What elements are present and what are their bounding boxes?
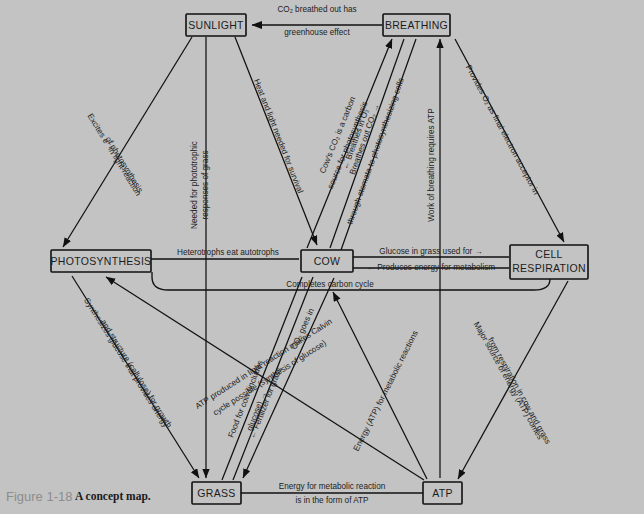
node-breathing[interactable]: BREATHING xyxy=(383,14,450,36)
concept-map-canvas: CO₂ breathed out has greenhouse effect E… xyxy=(0,0,644,530)
edge-label-e19: Energy (ATP) for metabolic reactions xyxy=(352,329,420,452)
edge-label-e21-line1: Energy for metabolic reaction xyxy=(279,482,386,491)
node-photosynthesis[interactable]: PHOTOSYNTHESIS xyxy=(51,250,152,272)
edge-cell-respiration-to-cow: ← Produces energy for metabolism xyxy=(353,263,509,272)
concept-map-figure: CO₂ breathed out has greenhouse effect E… xyxy=(0,0,644,530)
edge-label-e8: Work of breathing requires ATP xyxy=(427,108,436,222)
figure-caption-text: A concept map. xyxy=(75,490,151,503)
edge-label-e11: Glucose in grass used for → xyxy=(379,247,482,256)
figure-number: Figure 1-18 xyxy=(6,489,72,504)
edge-sunlight-to-cow: Heat and light needed for survival xyxy=(235,37,317,245)
edge-cell-respiration-to-photosynthesis: Completes carbon cycle xyxy=(152,272,550,290)
edge-grass-to-atp: Energy for metabolic reaction is in the … xyxy=(241,482,423,505)
edge-label-e9: Provides O₂ as final electron acceptor i… xyxy=(464,64,541,197)
edge-atp-to-breathing: Work of breathing requires ATP xyxy=(427,39,440,478)
node-label-cell-respiration-line1: CELL xyxy=(535,248,562,260)
figure-caption: Figure 1-18 A concept map. xyxy=(6,489,151,504)
edge-cell-respiration-to-atp: Major source of energy (ATP) comes from … xyxy=(458,281,568,479)
node-label-breathing: BREATHING xyxy=(385,19,448,31)
node-label-cow: COW xyxy=(314,255,341,267)
edge-label-e4: Heat and light needed for survival xyxy=(252,78,305,195)
edge-breathing-to-cell-respiration: Provides O₂ as final electron acceptor i… xyxy=(455,39,564,242)
edge-label-e3-line1: Needed for phototrophic xyxy=(190,141,199,229)
node-label-grass: GRASS xyxy=(197,487,235,499)
node-label-sunlight: SUNLIGHT xyxy=(188,19,244,31)
node-label-photosynthesis: PHOTOSYNTHESIS xyxy=(51,255,152,267)
edge-label-e3-line2: responses of grass xyxy=(201,150,210,219)
edge-photosynthesis-to-grass: Synthesizes glucose that provides energy… xyxy=(72,276,199,478)
node-sunlight[interactable]: SUNLIGHT xyxy=(186,14,246,36)
edge-label-e10: Heterotrophs eat autotrophs xyxy=(177,248,279,257)
edge-label-e14-line2: and structure (cellulose) for growth xyxy=(99,318,174,430)
node-label-cell-respiration-line2: RESPIRATION xyxy=(512,262,586,274)
edge-label-e21-line2: is in the form of ATP xyxy=(295,496,369,505)
node-cell-respiration[interactable]: CELL RESPIRATION xyxy=(510,245,588,279)
edge-atp-to-cow: Energy (ATP) for metabolic reactions xyxy=(333,292,427,479)
edge-label-e12: ← Produces energy for metabolism xyxy=(367,263,496,272)
edge-sunlight-to-grass: Needed for phototrophic responses of gra… xyxy=(190,37,210,478)
edge-label-e1-line2: greenhouse effect xyxy=(284,28,350,37)
edge-label-e20-line2: from respiration in cow and grass xyxy=(486,336,553,446)
node-cow[interactable]: COW xyxy=(301,250,353,272)
edge-cow-to-cell-respiration: Glucose in grass used for → xyxy=(353,247,509,257)
edge-label-e1-line1: CO₂ breathed out has xyxy=(277,5,356,14)
node-grass[interactable]: GRASS xyxy=(192,482,241,504)
edge-sunlight-to-photosynthesis: Excites e⁻ in light reaction of photosyn… xyxy=(63,37,192,247)
node-label-atp: ATP xyxy=(432,487,453,499)
edge-breathing-to-sunlight: CO₂ breathed out has greenhouse effect xyxy=(252,5,382,37)
node-atp[interactable]: ATP xyxy=(423,482,462,504)
page-bottom-margin xyxy=(0,514,644,530)
edge-photosynthesis-to-cow: Heterotrophs eat autotrophs xyxy=(151,248,299,259)
edge-label-e2-line2: of photosynthesis xyxy=(104,135,145,194)
